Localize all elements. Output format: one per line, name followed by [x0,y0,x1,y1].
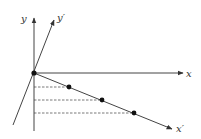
data-point-1 [67,85,72,90]
x-prime-axis-label: x′ [176,123,185,134]
y-axis-label: y [20,13,27,24]
coordinate-diagram: y y′ x x′ [0,0,201,139]
y-prime-axis-label: y′ [56,12,66,23]
origin-point [31,70,36,75]
data-point-2 [100,98,105,103]
data-point-3 [132,111,137,116]
x-axis-label: x [186,68,192,79]
